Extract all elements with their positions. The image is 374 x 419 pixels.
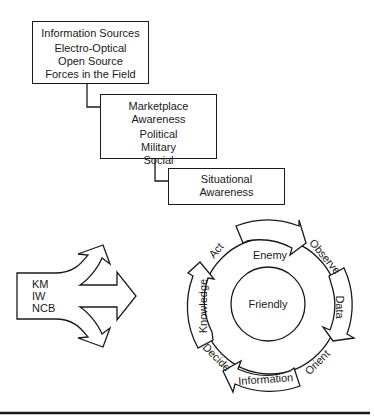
ooda-decide-label: Decide [200, 341, 233, 374]
friendly-label: Friendly [248, 298, 288, 310]
ooda-observe-label: Observe [307, 237, 343, 277]
arrow-data-label: Data [334, 295, 346, 319]
enemy-label: Enemy [253, 249, 288, 261]
input-item-ncb: NCB [32, 302, 55, 314]
input-item-iw: IW [32, 290, 55, 302]
input-item-km: KM [32, 278, 55, 290]
inputs-list: KM IW NCB [32, 278, 55, 314]
connector-sources-to-marketplace [87, 84, 100, 107]
connector-marketplace-to-situational [155, 159, 168, 181]
arrow-knowledge-label: Knowledge [197, 279, 209, 333]
diagram-canvas: Enemy Friendly Observe Orient Decide Act… [0, 0, 374, 419]
ooda-orient-label: Orient [302, 347, 332, 377]
